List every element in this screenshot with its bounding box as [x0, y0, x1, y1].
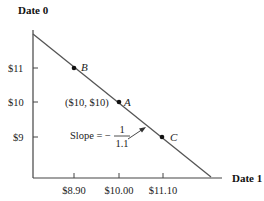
x-axis-title: Date 1	[232, 172, 262, 184]
y-axis-title: Date 0	[18, 4, 49, 16]
point-b	[72, 66, 77, 71]
budget-line-chart: Date 0 Date 1 $11 $10 $9 $8.90 $10.00 $1…	[0, 0, 264, 201]
point-c-label: C	[170, 131, 178, 143]
point-a	[117, 100, 122, 105]
x-tick-label-1000: $10.00	[105, 185, 134, 196]
slope-arrow-head-icon	[139, 127, 146, 133]
budget-line	[33, 34, 211, 177]
slope-numerator: 1	[119, 124, 124, 135]
x-tick-label-1110: $11.10	[149, 185, 178, 196]
slope-denominator: 1.1	[115, 138, 128, 149]
point-a-label: A	[123, 96, 131, 108]
point-b-label: B	[81, 61, 88, 73]
point-a-coords: ($10, $10)	[65, 97, 109, 109]
y-tick-label-11: $11	[8, 63, 23, 74]
point-c	[160, 135, 165, 140]
x-tick-label-890: $8.90	[62, 185, 86, 196]
slope-prefix: Slope = −	[70, 130, 111, 141]
y-tick-label-9: $9	[13, 132, 24, 143]
y-tick-label-10: $10	[8, 97, 24, 108]
